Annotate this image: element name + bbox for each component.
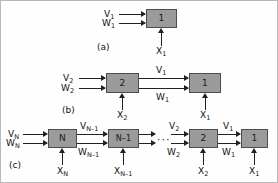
- arrow-w2-into-unit2: [171, 143, 188, 144]
- panel-caption-b: (b): [62, 106, 75, 115]
- label-x2-input: X2: [198, 167, 208, 176]
- arrow-v1-into-unit1: [119, 14, 145, 15]
- unit-block-2: 2: [106, 73, 139, 93]
- label-x1-input: X1: [156, 47, 166, 56]
- arrow-v2-into-unit2: [79, 78, 105, 79]
- unit-block-1: 1: [241, 129, 268, 148]
- label-w1-input: W1: [102, 19, 115, 28]
- arrow-vN-into-unitN: [23, 134, 47, 135]
- arrow-w1-unit2-to-unit1: [139, 88, 188, 89]
- label-x1-input: X1: [249, 167, 259, 176]
- arrow-w1-into-unit1: [119, 23, 145, 24]
- unit-block-N-minus-1: N–1: [108, 129, 139, 148]
- arrow-w-unitN1-to-ellipsis: [139, 143, 155, 144]
- figure-canvas: 1 V1 W1 X1 (a) 2 1 V2 W2 X2 X1 V1 W1 (b)…: [0, 0, 278, 183]
- label-v2-input: V2: [63, 74, 73, 83]
- arrow-wN-into-unitN: [23, 143, 47, 144]
- unit-block-N: N: [48, 129, 77, 148]
- arrow-x1-into-unit1: [205, 98, 206, 110]
- label-v2-interconnect: V2: [169, 122, 179, 131]
- ellipsis-icon: ···: [157, 135, 171, 145]
- arrow-v1-unit2-to-unit1: [139, 78, 188, 79]
- unit-block-1: 1: [146, 9, 177, 28]
- label-x1-input: X1: [200, 111, 210, 120]
- unit-block-1: 1: [189, 73, 221, 93]
- label-wN-input: WN: [6, 139, 20, 148]
- unit-block-2: 2: [189, 129, 218, 148]
- label-v1-interconnect: V1: [156, 66, 166, 75]
- arrow-xN1-into-unitN1: [123, 153, 124, 165]
- arrow-wN1-unitN-to-unitN1: [77, 143, 107, 144]
- arrow-w1-unit2-to-unit1: [218, 143, 240, 144]
- label-xN1-input: XN–1: [114, 167, 132, 176]
- panel-caption-c: (c): [9, 161, 21, 170]
- label-vN1-interconnect: VN–1: [80, 122, 98, 131]
- label-xN-input: XN: [57, 167, 68, 176]
- arrow-x1-into-unit1: [254, 153, 255, 165]
- panel-caption-a: (a): [97, 43, 110, 52]
- label-wN1-interconnect: WN–1: [78, 148, 99, 157]
- arrow-v2-into-unit2: [171, 134, 188, 135]
- arrow-v-unitN1-to-ellipsis: [139, 134, 155, 135]
- arrow-vN1-unitN-to-unitN1: [77, 134, 107, 135]
- label-w2-input: W2: [61, 84, 74, 93]
- label-w1-interconnect: W1: [222, 148, 235, 157]
- arrow-x2-into-unit2: [203, 153, 204, 165]
- label-w1-interconnect: W1: [156, 93, 169, 102]
- label-w2-interconnect: W2: [167, 148, 180, 157]
- arrow-x2-into-unit2: [122, 98, 123, 110]
- arrow-v1-unit2-to-unit1: [218, 134, 240, 135]
- arrow-xN-into-unitN: [62, 153, 63, 165]
- arrow-x1-into-unit1: [161, 33, 162, 46]
- arrow-w2-into-unit2: [79, 88, 105, 89]
- label-x2-input: X2: [117, 111, 127, 120]
- label-v1-interconnect: V1: [223, 122, 233, 131]
